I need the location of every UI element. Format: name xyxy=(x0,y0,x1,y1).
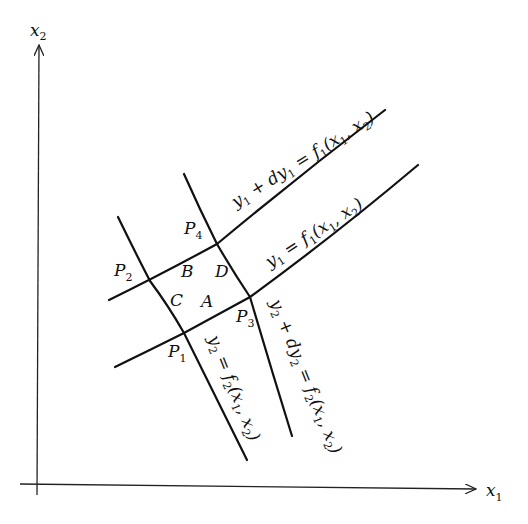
figure: x2 x1 y1 + dy1 = f1(x1, x2) y1 = f1(x1, … xyxy=(0,0,528,524)
point-label-p2: P2 xyxy=(113,260,132,284)
x1-axis xyxy=(20,484,476,489)
x2-axis xyxy=(37,45,39,495)
region-label-d: D xyxy=(214,261,229,281)
region-label-c: C xyxy=(170,290,183,310)
region-label-a: A xyxy=(199,291,213,311)
svg-text:y1 = f1(x1, x2): y1 = f1(x1, x2) xyxy=(260,193,367,274)
curve-y2 xyxy=(118,217,247,460)
point-label-p4: P4 xyxy=(183,218,202,242)
svg-text:y2 + dy2 = f2(x1, x2): y2 + dy2 = f2(x1, x2) xyxy=(263,295,346,457)
x2-axis-label: x2 xyxy=(30,20,47,43)
label-y1: y1 = f1(x1, x2) xyxy=(260,193,367,274)
diagram-canvas: x2 x1 y1 + dy1 = f1(x1, x2) y1 = f1(x1, … xyxy=(0,0,528,524)
x1-axis-label: x1 xyxy=(486,480,503,504)
region-label-b: B xyxy=(180,261,194,281)
point-label-p3: P3 xyxy=(235,306,254,330)
point-label-p1: P1 xyxy=(167,341,186,365)
label-y2-plus-dy2: y2 + dy2 = f2(x1, x2) xyxy=(263,295,346,457)
curve-y1 xyxy=(115,165,418,367)
